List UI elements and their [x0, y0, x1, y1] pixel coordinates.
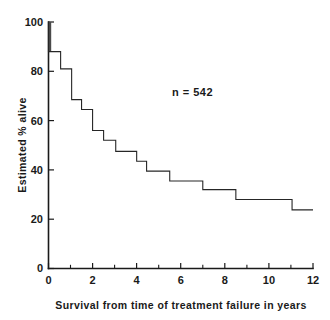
- y-axis-title: Estimated % alive: [16, 97, 28, 193]
- y-tick-label-80: 80: [31, 65, 43, 77]
- axes-group: [49, 22, 314, 269]
- x-axis-tick-labels: 0 2 4 6 8 10 12: [45, 274, 319, 286]
- y-axis-ticks: [49, 22, 55, 269]
- x-tick-label-4: 4: [134, 274, 141, 286]
- y-tick-label-20: 20: [31, 213, 43, 225]
- kaplan-meier-step-curve: [49, 22, 314, 210]
- x-tick-label-6: 6: [178, 274, 184, 286]
- survival-curve-group: [49, 22, 314, 210]
- y-tick-label-100: 100: [25, 16, 43, 28]
- y-tick-label-0: 0: [37, 262, 43, 274]
- x-tick-label-10: 10: [263, 274, 275, 286]
- x-tick-label-8: 8: [222, 274, 228, 286]
- x-tick-label-0: 0: [45, 274, 51, 286]
- survival-chart-figure: 0 20 40 60 80 100 0: [0, 0, 330, 320]
- x-tick-label-2: 2: [90, 274, 96, 286]
- y-tick-label-40: 40: [31, 164, 43, 176]
- sample-size-annotation: n = 542: [172, 86, 213, 98]
- x-tick-label-12: 12: [307, 274, 319, 286]
- chart-canvas: 0 20 40 60 80 100 0: [0, 0, 330, 320]
- y-tick-label-60: 60: [31, 115, 43, 127]
- x-axis-ticks: [49, 263, 314, 269]
- x-axis-title: Survival from time of treatment failure …: [55, 299, 306, 311]
